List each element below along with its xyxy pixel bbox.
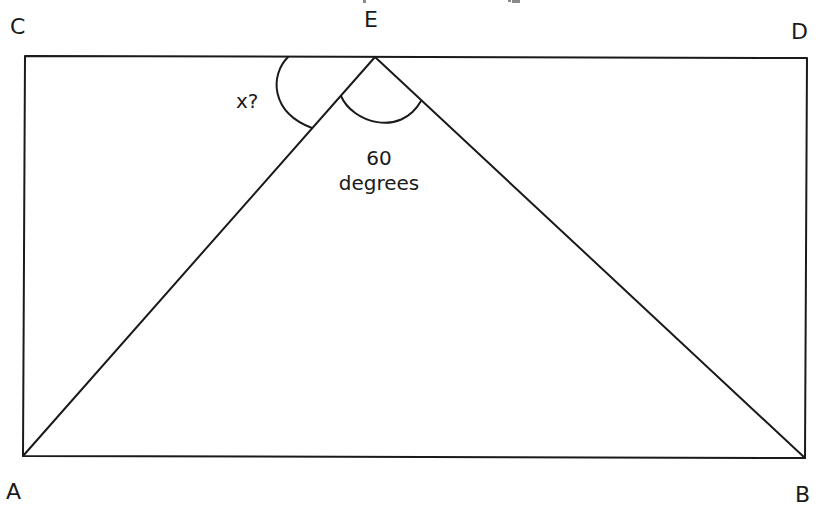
segment-AE	[23, 57, 375, 456]
geometry-diagram: C E D A B x? 60 degrees	[0, 0, 816, 509]
vertex-label-D: D	[791, 19, 808, 44]
angle-label-60-value: 60	[366, 146, 391, 170]
segment-EB	[375, 57, 805, 458]
angle-label-60-unit: degrees	[339, 171, 420, 195]
angle-label-x: x?	[236, 89, 258, 113]
vertex-label-C: C	[10, 14, 25, 39]
angle-arc-x	[277, 57, 312, 128]
vertex-label-E: E	[364, 7, 378, 32]
angle-arc-60	[341, 96, 421, 123]
rectangle-ACDB	[23, 56, 807, 458]
top-cutoff-remnants	[363, 0, 520, 3]
vertex-label-A: A	[6, 479, 21, 504]
vertex-label-B: B	[795, 482, 810, 507]
